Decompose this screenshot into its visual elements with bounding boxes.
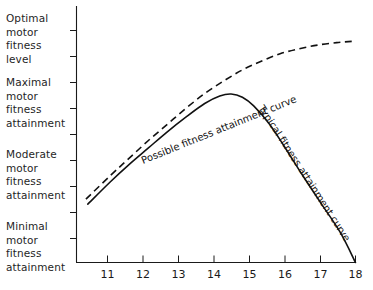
chart-canvas: 11 12 13 14 15 16 17 18 Possible fitness… (0, 0, 373, 290)
x-tick-label: 15 (243, 268, 257, 281)
x-tick-label: 18 (349, 268, 363, 281)
x-tick-label: 12 (136, 268, 150, 281)
x-tick-label: 16 (278, 268, 292, 281)
typical-curve-label: Typical fitness attainment curve (256, 102, 353, 243)
fitness-attainment-chart: Optimal motor fitness level Maximal moto… (0, 0, 373, 290)
x-tick-label: 13 (172, 268, 186, 281)
x-axis-tick-labels: 11 12 13 14 15 16 17 18 (101, 268, 363, 281)
x-tick-label: 11 (101, 268, 115, 281)
y-axis-ticks (70, 31, 77, 239)
x-axis-ticks (108, 256, 356, 263)
x-tick-label: 17 (314, 268, 328, 281)
x-tick-label: 14 (207, 268, 221, 281)
